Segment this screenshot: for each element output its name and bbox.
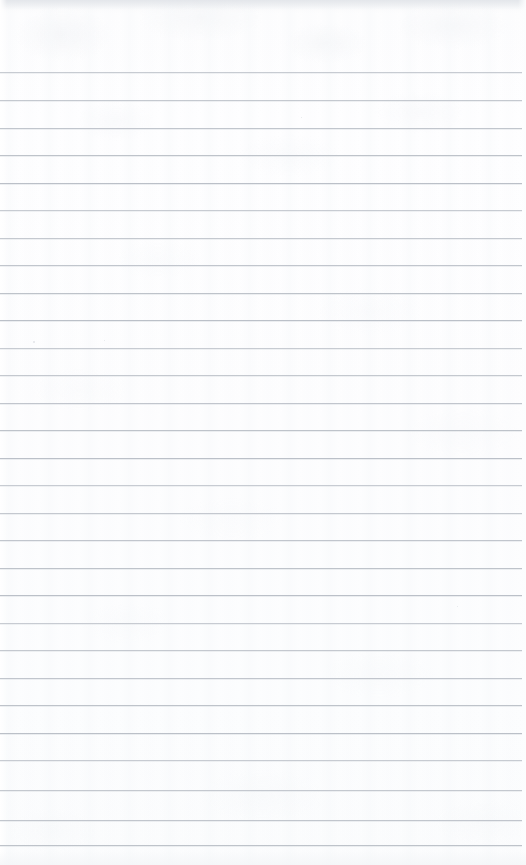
lined-paper-page (0, 0, 526, 865)
writing-area[interactable] (0, 0, 526, 865)
